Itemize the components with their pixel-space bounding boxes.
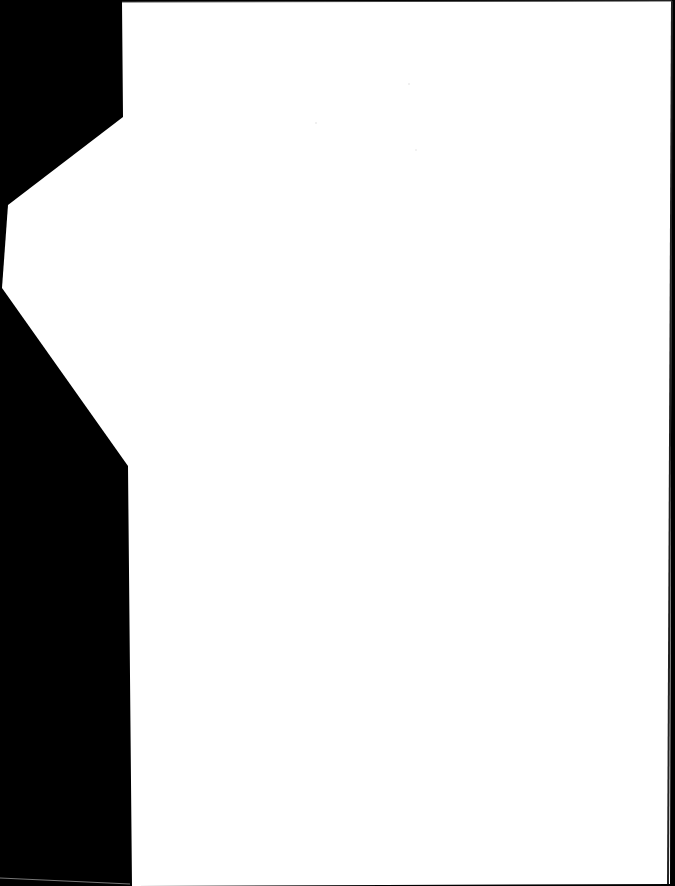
scan-speck — [315, 122, 317, 124]
scan-canvas — [0, 0, 675, 886]
blank-document-page — [122, 1, 672, 886]
scan-speck — [408, 83, 410, 85]
scanned-document-scene — [0, 0, 675, 886]
scan-speck — [415, 149, 417, 151]
